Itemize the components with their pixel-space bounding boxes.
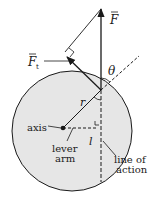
line-of-action-label-2: action [116,164,148,175]
radius-extension [101,56,139,90]
force-label: F [109,12,119,27]
lever-arm-label-2: arm [55,153,76,164]
axis-label: axis [27,122,47,133]
svg-text:F: F [109,13,119,27]
radius-label: r [80,96,86,109]
tangential-force-label: F t [27,54,39,71]
torque-diagram: F F t θ r axis lever arm l line of actio… [0,0,161,199]
right-angle-mark-ft [69,48,74,57]
svg-text:t: t [36,63,39,71]
lever-arm-symbol: l [89,135,93,148]
component-line [65,9,101,52]
axis-point [61,126,66,131]
theta-label: θ [108,64,116,78]
